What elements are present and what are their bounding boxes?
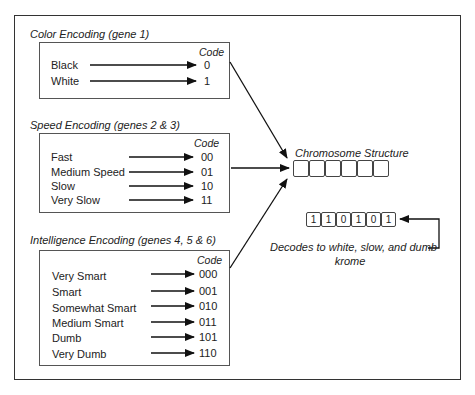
arrows-overlay bbox=[0, 0, 475, 395]
example-bit: 1 bbox=[351, 212, 366, 227]
chromosome-title: Chromosome Structure bbox=[295, 147, 409, 159]
chromosome-slot bbox=[293, 160, 309, 177]
example-bit: 1 bbox=[306, 212, 321, 227]
example-bit: 1 bbox=[381, 212, 396, 227]
example-bit: 0 bbox=[366, 212, 381, 227]
chromosome-slot bbox=[309, 160, 325, 177]
chromosome-slot bbox=[373, 160, 389, 177]
example-caption-line2: krome bbox=[320, 255, 380, 268]
chromosome-slot bbox=[341, 160, 357, 177]
example-bit: 0 bbox=[336, 212, 351, 227]
example-caption-line1: Decodes to white, slow, and dumb bbox=[270, 241, 430, 254]
example-bit: 1 bbox=[321, 212, 336, 227]
chromosome-slot bbox=[325, 160, 341, 177]
chromosome-slot bbox=[357, 160, 373, 177]
